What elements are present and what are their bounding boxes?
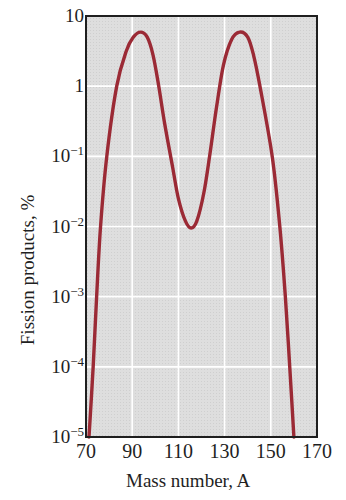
fission-yield-chart xyxy=(0,0,346,500)
